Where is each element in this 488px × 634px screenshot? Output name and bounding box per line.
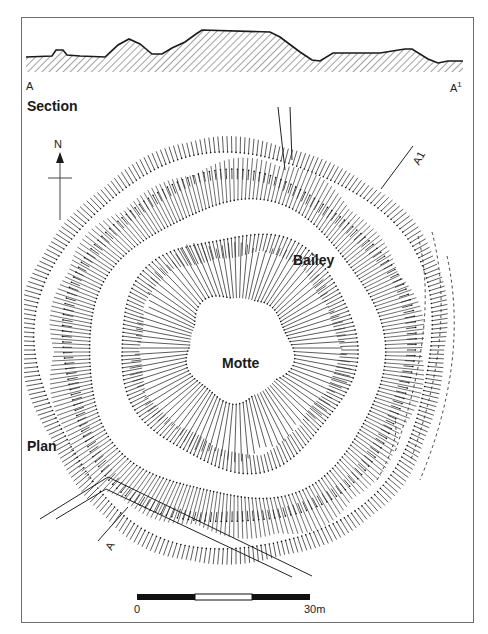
north-arrow-label: N — [54, 138, 62, 150]
section-label-a1: A1 — [450, 80, 462, 94]
bailey-label: Bailey — [293, 252, 334, 268]
plan-title: Plan — [27, 438, 57, 454]
scale-end-label: 30m — [304, 603, 325, 615]
approach-road — [40, 477, 312, 577]
section-line-a1 — [381, 146, 413, 189]
section-label-a1-superscript: 1 — [457, 80, 461, 89]
section-title: Section — [27, 98, 78, 114]
north-arrow-icon — [48, 152, 72, 220]
scale-bar — [137, 594, 310, 600]
drawing-canvas — [0, 0, 488, 634]
earthwork-plan — [19, 136, 448, 565]
section-profile — [26, 30, 463, 72]
scale-start-label: 0 — [134, 603, 140, 615]
section-label-a: A — [26, 80, 33, 92]
motte-label: Motte — [222, 355, 259, 371]
